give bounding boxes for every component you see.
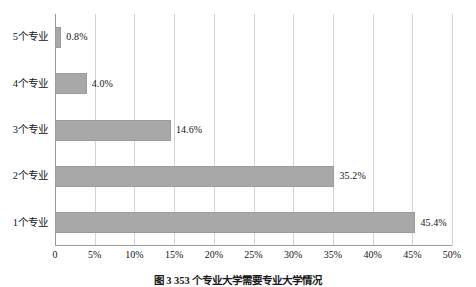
x-tick-20pct: 20% — [205, 250, 223, 260]
x-tick-5pct: 5% — [88, 250, 101, 260]
bar-4个专业 — [55, 73, 87, 94]
category-label-5个专业: 5个专业 — [0, 32, 48, 43]
x-tick-35pct: 35% — [324, 250, 342, 260]
x-tick-10pct: 10% — [125, 250, 143, 260]
bar-value-label: 0.8% — [66, 32, 87, 42]
figure-caption: 图 3 353 个专业大学需要专业大学情况 — [0, 275, 476, 287]
bar-row: 45.4% — [55, 212, 452, 233]
figure-container: 0.8%4.0%14.6%35.2%45.4% 5个专业4个专业3个专业2个专业… — [0, 0, 476, 287]
bar-row: 0.8% — [55, 27, 452, 48]
plot-area: 0.8%4.0%14.6%35.2%45.4% — [55, 14, 452, 246]
bar-1个专业 — [55, 212, 415, 233]
bar-value-label: 45.4% — [420, 218, 446, 228]
bar-row: 4.0% — [55, 73, 452, 94]
x-tick-25pct: 25% — [244, 250, 262, 260]
bar-3个专业 — [55, 120, 171, 141]
bar-row: 35.2% — [55, 166, 452, 187]
category-label-4个专业: 4个专业 — [0, 79, 48, 90]
category-label-3个专业: 3个专业 — [0, 125, 48, 136]
category-label-2个专业: 2个专业 — [0, 171, 48, 182]
x-tick-30pct: 30% — [284, 250, 302, 260]
bar-value-label: 14.6% — [176, 125, 202, 135]
bar-2个专业 — [55, 166, 334, 187]
bar-value-label: 4.0% — [92, 79, 113, 89]
x-tick-45pct: 45% — [403, 250, 421, 260]
gridline-50pct — [452, 14, 453, 246]
bar-5个专业 — [55, 27, 61, 48]
x-tick-50pct: 50% — [443, 250, 461, 260]
x-tick-15pct: 15% — [165, 250, 183, 260]
x-tick-40pct: 40% — [363, 250, 381, 260]
bar-row: 14.6% — [55, 120, 452, 141]
category-label-1个专业: 1个专业 — [0, 218, 48, 229]
x-axis-baseline — [55, 245, 452, 246]
x-tick-0: 0 — [53, 250, 58, 260]
bar-value-label: 35.2% — [339, 171, 365, 181]
